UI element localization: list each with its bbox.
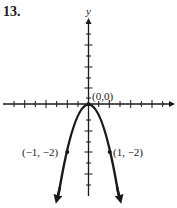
y-axis-label: y	[85, 5, 91, 17]
point-left-label: (−1, −2)	[22, 146, 59, 159]
curve-arrow-right-icon	[117, 187, 120, 199]
parabola-graph: y (0,0) (−1, −2) (1, −2)	[0, 0, 177, 208]
point-left	[65, 150, 69, 154]
curve-arrow-left-icon	[57, 187, 60, 199]
point-right-label: (1, −2)	[113, 146, 143, 159]
point-origin	[87, 102, 91, 106]
point-right	[108, 150, 112, 154]
origin-label: (0,0)	[92, 90, 113, 103]
